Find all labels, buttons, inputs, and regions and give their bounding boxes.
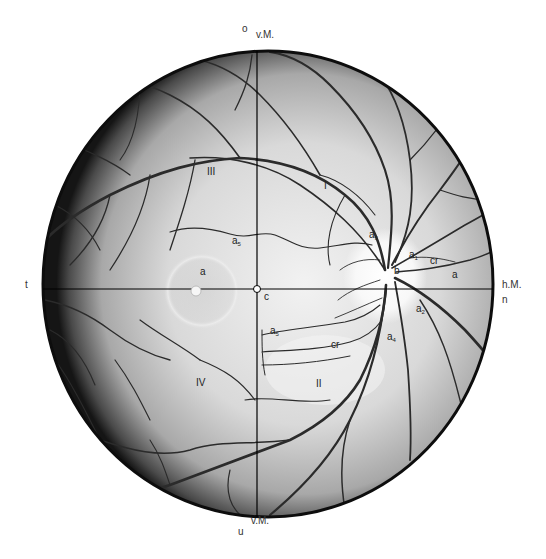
- foveola-spot: [191, 286, 201, 296]
- label-fovea-c: c: [264, 292, 269, 302]
- label-a3: a3: [369, 230, 378, 243]
- label-horizontal-meridian: h.M.: [502, 280, 521, 290]
- quadrant-label-III: III: [207, 167, 215, 177]
- label-top-vertical-meridian: v.M.: [256, 30, 274, 40]
- label-bottom-vertical-meridian: v.M.: [251, 516, 269, 526]
- label-a2: a2: [416, 304, 425, 317]
- label-a5-upper: a5: [232, 236, 241, 249]
- label-top-o: o: [242, 24, 248, 34]
- label-macula-a: a: [200, 267, 206, 277]
- label-nasal-n: n: [502, 295, 508, 305]
- label-bottom-u: u: [238, 527, 244, 537]
- fundus-diagram: o v.M. t h.M. n v.M. u III I IV II a5 a …: [0, 0, 546, 559]
- label-a-nasal: a: [452, 270, 458, 280]
- fundus-illustration: [0, 0, 546, 559]
- label-a4: a4: [387, 332, 396, 345]
- label-temporal-t: t: [25, 280, 28, 290]
- label-optic-disc-b: b: [394, 266, 400, 276]
- fovea-center-marker: [254, 286, 261, 293]
- quadrant-label-I: I: [324, 181, 327, 191]
- label-a1: a1: [409, 250, 418, 263]
- macula-zone: [164, 253, 240, 329]
- label-cr-lower: cr: [331, 340, 339, 350]
- label-a5-lower: a5: [270, 326, 279, 339]
- label-cr-nasal: cr: [430, 256, 438, 266]
- quadrant-label-IV: IV: [196, 378, 205, 388]
- quadrant-label-II: II: [316, 379, 322, 389]
